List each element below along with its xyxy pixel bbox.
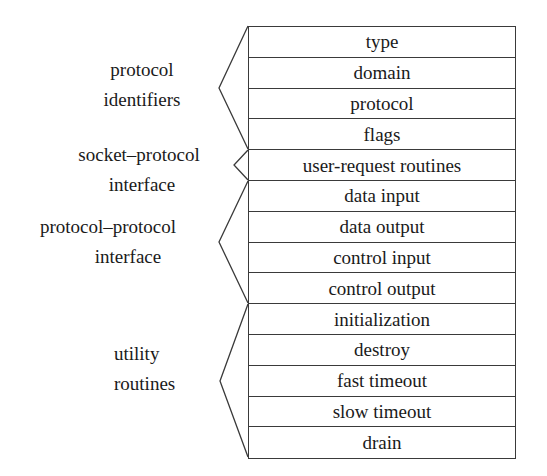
group-label-line: interface xyxy=(22,242,194,272)
group-label-line: interface xyxy=(64,170,214,200)
field-row-control-input: control input xyxy=(249,243,515,274)
brace-socket-protocol-interface xyxy=(234,150,248,180)
field-row-protocol: protocol xyxy=(249,89,515,120)
group-label-line: socket–protocol xyxy=(64,140,214,170)
group-label-line: identifiers xyxy=(90,85,194,115)
brace-utility-routines xyxy=(220,304,248,457)
field-row-slow-timeout: slow timeout xyxy=(249,397,515,428)
field-row-initialization: initialization xyxy=(249,304,515,335)
brace-protocol-identifiers xyxy=(219,26,248,149)
protosw-structure-box: type domain protocol flags user-request … xyxy=(248,26,516,459)
field-row-user-request-routines: user-request routines xyxy=(249,150,515,181)
group-label-line: protocol xyxy=(90,55,194,85)
field-row-control-output: control output xyxy=(249,273,515,304)
group-label-utility-routines: utility routines xyxy=(114,339,175,399)
protocol-switch-structure-diagram: protocol identifiers socket–protocol int… xyxy=(0,0,547,476)
field-row-destroy: destroy xyxy=(249,335,515,366)
field-row-domain: domain xyxy=(249,58,515,89)
group-label-line: protocol–protocol xyxy=(22,212,194,242)
field-row-data-input: data input xyxy=(249,181,515,212)
field-row-data-output: data output xyxy=(249,212,515,243)
field-row-flags: flags xyxy=(249,119,515,150)
group-label-line: utility xyxy=(114,339,175,369)
field-row-type: type xyxy=(249,27,515,58)
group-label-protocol-identifiers: protocol identifiers xyxy=(90,55,194,115)
field-row-fast-timeout: fast timeout xyxy=(249,366,515,397)
brace-protocol-protocol-interface xyxy=(219,181,248,303)
field-row-drain: drain xyxy=(249,427,515,458)
group-label-protocol-protocol-interface: protocol–protocol interface xyxy=(22,212,194,272)
group-label-line: routines xyxy=(114,369,175,399)
group-label-socket-protocol-interface: socket–protocol interface xyxy=(64,140,214,200)
